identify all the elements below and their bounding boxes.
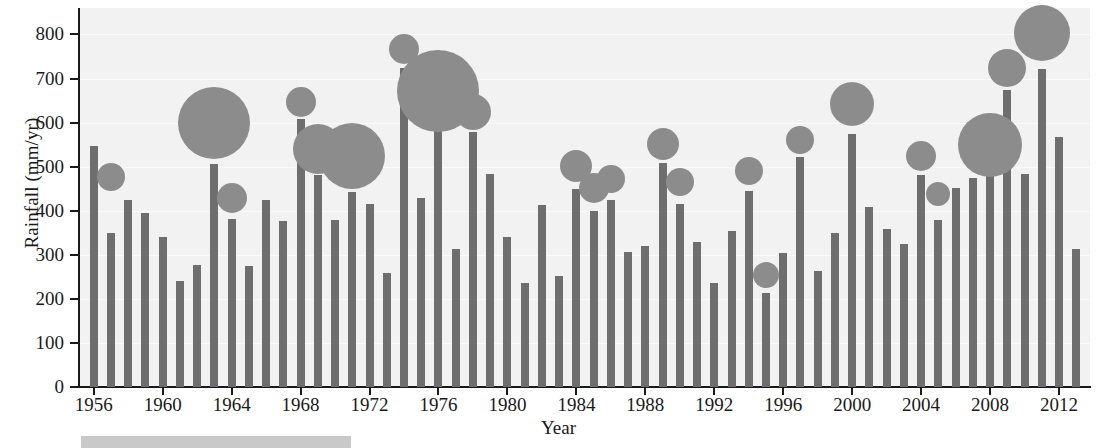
- bar: [676, 204, 684, 387]
- bar: [228, 219, 236, 387]
- bar: [831, 233, 839, 387]
- bar: [348, 192, 356, 387]
- y-tick-mark: [70, 210, 79, 212]
- bubble-marker: [286, 87, 316, 117]
- bar: [107, 233, 115, 387]
- bar: [159, 237, 167, 387]
- y-tick-label: 200: [0, 289, 64, 308]
- bar: [572, 189, 580, 387]
- bubble-marker: [988, 49, 1026, 87]
- bar: [745, 191, 753, 387]
- bar: [469, 132, 477, 387]
- y-tick-label: 500: [0, 157, 64, 176]
- bar: [366, 204, 374, 387]
- bar: [641, 246, 649, 387]
- bar: [814, 271, 822, 387]
- bar: [952, 188, 960, 387]
- bar: [917, 175, 925, 387]
- bubble-marker: [217, 183, 247, 213]
- bar: [900, 244, 908, 387]
- footer-color-swatch: [81, 436, 351, 448]
- gridline: [80, 79, 1090, 80]
- bar: [279, 221, 287, 387]
- y-tick-mark: [70, 298, 79, 300]
- bar: [383, 273, 391, 387]
- bar: [176, 281, 184, 387]
- bar: [1021, 174, 1029, 387]
- y-tick-mark: [70, 33, 79, 35]
- bar: [193, 265, 201, 387]
- bar: [590, 211, 598, 387]
- bar: [538, 205, 546, 387]
- bar: [762, 293, 770, 387]
- bar: [624, 252, 632, 387]
- x-tick-label: 2012: [1014, 394, 1104, 416]
- bubble-marker: [666, 168, 694, 196]
- bubble-marker: [906, 141, 936, 171]
- y-tick-label: 800: [0, 24, 64, 43]
- y-tick-mark: [70, 342, 79, 344]
- y-tick-mark: [70, 122, 79, 124]
- bar: [141, 213, 149, 387]
- bar: [90, 146, 98, 387]
- y-tick-label: 300: [0, 245, 64, 264]
- bubble-marker: [830, 82, 874, 126]
- bar: [1072, 249, 1080, 387]
- rainfall-chart-figure: Rainfall (mm/yr) 01002003004005006007008…: [0, 0, 1117, 448]
- bubble-marker: [753, 262, 779, 288]
- gridline: [80, 34, 1090, 35]
- bar: [555, 276, 563, 387]
- bar: [331, 220, 339, 387]
- bar: [1038, 69, 1046, 387]
- bar: [245, 266, 253, 387]
- y-axis-spine: [78, 8, 80, 387]
- bar: [124, 200, 132, 387]
- bar: [779, 253, 787, 387]
- bar: [417, 198, 425, 387]
- bar: [452, 249, 460, 387]
- bar: [1055, 137, 1063, 387]
- bar: [710, 283, 718, 387]
- bar: [883, 229, 891, 387]
- y-tick-mark: [70, 78, 79, 80]
- bar: [796, 157, 804, 387]
- y-tick-label: 700: [0, 69, 64, 88]
- y-tick-label: 400: [0, 201, 64, 220]
- bar: [314, 175, 322, 387]
- y-tick-mark: [70, 166, 79, 168]
- bar: [693, 242, 701, 387]
- bar: [503, 237, 511, 387]
- bar: [986, 145, 994, 387]
- bar: [728, 231, 736, 387]
- bar: [521, 283, 529, 387]
- bar: [848, 134, 856, 387]
- bubble-marker: [319, 123, 385, 189]
- bar: [969, 178, 977, 387]
- bubble-marker: [455, 94, 491, 130]
- y-tick-mark: [70, 254, 79, 256]
- bubble-marker: [597, 165, 625, 193]
- bar: [434, 126, 442, 387]
- y-tick-mark: [70, 386, 79, 388]
- bar: [659, 163, 667, 387]
- bubble-marker: [1014, 5, 1070, 61]
- bar: [607, 200, 615, 387]
- bar: [865, 207, 873, 387]
- bubble-marker: [647, 128, 679, 160]
- bar: [262, 200, 270, 387]
- bubble-marker: [958, 113, 1022, 177]
- bar: [934, 220, 942, 387]
- y-tick-label: 600: [0, 113, 64, 132]
- y-tick-label: 100: [0, 333, 64, 352]
- bubble-marker: [735, 157, 763, 185]
- bar: [486, 174, 494, 387]
